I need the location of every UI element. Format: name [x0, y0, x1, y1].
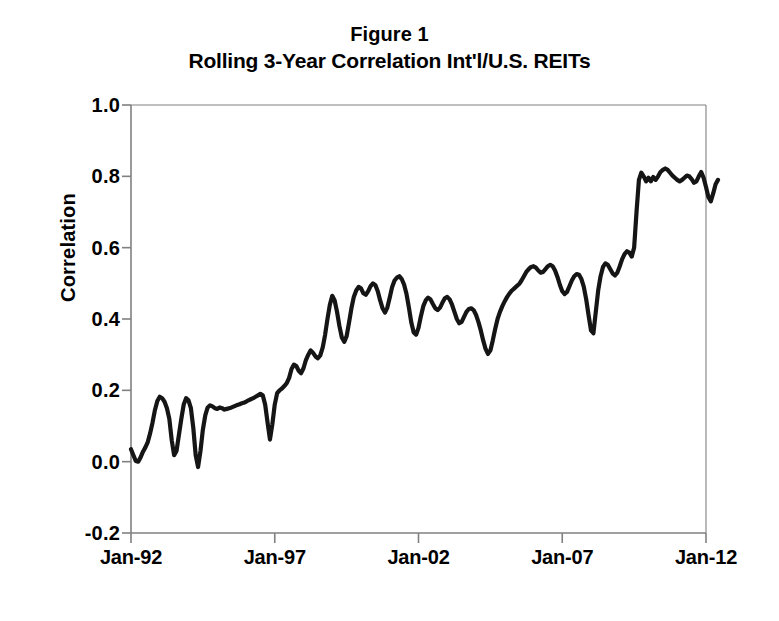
axis-ticks: [122, 105, 706, 543]
correlation-line: [131, 168, 718, 467]
figure-container: Figure 1 Rolling 3-Year Correlation Int'…: [0, 0, 779, 621]
plot-area: [0, 0, 779, 621]
